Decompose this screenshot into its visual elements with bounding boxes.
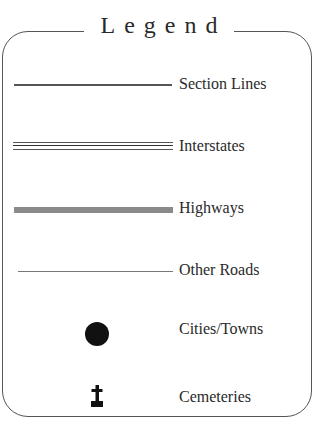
highway-line-symbol <box>14 207 173 213</box>
city-dot-icon <box>85 322 109 346</box>
legend-label: Section Lines <box>179 74 267 94</box>
legend-item-interstates: Interstates <box>0 132 318 162</box>
legend-item-cities-towns: Cities/Towns <box>0 318 318 348</box>
legend-item-cemeteries: Cemeteries <box>0 384 318 414</box>
legend-title-wrap: Legend <box>0 10 318 40</box>
interstate-line-symbol <box>13 142 173 150</box>
legend-label: Cities/Towns <box>179 319 263 339</box>
legend-item-highways: Highways <box>0 195 318 225</box>
other-road-line-symbol <box>18 271 173 272</box>
cemetery-cross-icon <box>90 385 104 407</box>
legend-item-section-lines: Section Lines <box>0 72 318 102</box>
legend-label: Interstates <box>179 136 245 156</box>
legend-item-other-roads: Other Roads <box>0 256 318 286</box>
legend-label: Other Roads <box>179 260 259 280</box>
section-line-symbol <box>14 84 172 86</box>
legend-label: Highways <box>179 198 244 218</box>
legend-title: Legend <box>84 10 235 40</box>
legend-label: Cemeteries <box>179 387 251 407</box>
